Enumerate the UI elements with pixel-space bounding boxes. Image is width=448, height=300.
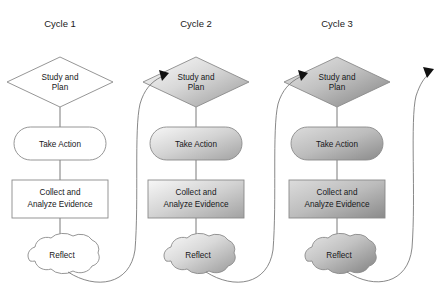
loop-arrow-3-to-next-arrowhead [423,67,434,78]
node-collect-evidence-2-line2: Analyze Evidence [163,200,229,209]
cycle-title-3: Cycle 3 [321,18,353,29]
node-study-and-plan-1[interactable] [7,57,113,107]
node-take-action-2-label: Take Action [175,140,217,149]
node-study-and-plan-1-line1: Study and [42,73,79,82]
node-reflect-2-label: Reflect [185,251,211,260]
cycle-title-2: Cycle 2 [180,18,212,29]
node-collect-evidence-3-line1: Collect and [317,188,358,197]
cycle-3-group: Study and Plan Take Action Collect and A… [284,57,390,274]
node-study-and-plan-2-line2: Plan [188,83,205,92]
pdsa-cycles-diagram: Cycle 1 Cycle 2 Cycle 3 Study and Plan T… [0,0,448,300]
node-study-and-plan-3-line2: Plan [329,83,346,92]
node-collect-evidence-3[interactable] [289,180,385,218]
node-reflect-1-label: Reflect [49,251,75,260]
node-take-action-3-label: Take Action [316,140,358,149]
node-study-and-plan-3[interactable] [284,57,390,107]
node-study-and-plan-3-line1: Study and [319,73,356,82]
node-study-and-plan-2-line1: Study and [178,73,215,82]
diagram-canvas: Cycle 1 Cycle 2 Cycle 3 Study and Plan T… [0,0,448,300]
cycle-2-group: Study and Plan Take Action Collect and A… [143,57,249,274]
node-collect-evidence-2-line1: Collect and [176,188,217,197]
node-collect-evidence-3-line2: Analyze Evidence [304,200,370,209]
node-reflect-3-label: Reflect [326,251,352,260]
node-take-action-1-label: Take Action [39,140,81,149]
node-study-and-plan-1-line2: Plan [52,83,69,92]
node-collect-evidence-1-line1: Collect and [40,188,81,197]
node-collect-evidence-2[interactable] [148,180,244,218]
node-study-and-plan-2[interactable] [143,57,249,107]
cycle-title-1: Cycle 1 [44,18,76,29]
node-collect-evidence-1[interactable] [12,180,108,218]
cycle-1-group: Study and Plan Take Action Collect and A… [7,57,113,274]
node-collect-evidence-1-line2: Analyze Evidence [27,200,93,209]
